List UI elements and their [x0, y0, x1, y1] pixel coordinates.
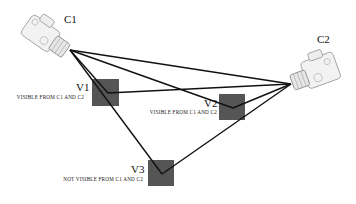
camera-visibility-diagram [0, 0, 356, 204]
voxel-v1-label: V1 [76, 82, 89, 93]
voxel-v2-label: V2 [204, 98, 217, 109]
camera-c2-icon [285, 46, 342, 94]
ray-c1-c2 [70, 50, 291, 84]
ray-c1-v3 [70, 50, 162, 174]
rays-from-c2 [108, 84, 291, 174]
camera-c2-label: C2 [317, 34, 330, 45]
voxel-v1-caption: Visible from C1 and C2 [17, 95, 84, 100]
voxel-v3-caption: Not Visible From C1 and C2 [63, 177, 143, 182]
voxel-v2-caption: Visible from C1 and C2 [150, 110, 217, 115]
ray-c2-v1 [108, 84, 291, 93]
camera-c1-label: C1 [64, 14, 77, 25]
voxel-v3-label: V3 [131, 164, 144, 175]
